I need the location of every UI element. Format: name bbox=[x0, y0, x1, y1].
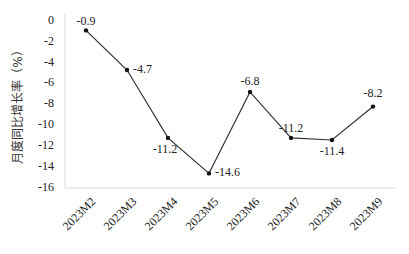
data-point-marker bbox=[371, 104, 375, 108]
data-point-marker bbox=[289, 136, 293, 140]
x-tick-label: 2023M4 bbox=[142, 194, 181, 233]
data-label: -4.7 bbox=[133, 62, 152, 76]
line-chart: 月度同比增长率（%） 0-2-4-6-8-10-12-14-16 -0.9-4.… bbox=[0, 0, 409, 254]
y-tick-label: -6 bbox=[44, 75, 54, 89]
y-tick-label: 0 bbox=[48, 13, 54, 27]
data-labels: -0.9-4.7-11.2-14.6-6.8-11.2-11.4-8.2 bbox=[77, 14, 383, 179]
y-tick-label: -4 bbox=[44, 55, 54, 69]
data-label: -0.9 bbox=[77, 14, 96, 28]
y-tick-label: -10 bbox=[38, 117, 54, 131]
y-axis-ticks: 0-2-4-6-8-10-12-14-16 bbox=[38, 13, 54, 194]
x-axis-ticks: 2023M22023M32023M42023M52023M62023M72023… bbox=[60, 194, 386, 233]
data-point-marker bbox=[248, 90, 252, 94]
y-tick-label: -12 bbox=[38, 138, 54, 152]
data-point-marker bbox=[84, 28, 88, 32]
data-label: -6.8 bbox=[241, 74, 260, 88]
x-tick-label: 2023M7 bbox=[265, 194, 304, 233]
data-label: -11.4 bbox=[320, 144, 345, 158]
data-point-marker bbox=[166, 136, 170, 140]
data-point-marker bbox=[125, 68, 129, 72]
data-label: -11.2 bbox=[279, 121, 304, 135]
x-tick-label: 2023M3 bbox=[101, 194, 140, 233]
x-tick-label: 2023M6 bbox=[224, 194, 263, 233]
data-point-marker bbox=[330, 138, 334, 142]
data-label: -11.2 bbox=[153, 142, 178, 156]
y-tick-label: -8 bbox=[44, 96, 54, 110]
x-tick-label: 2023M2 bbox=[60, 194, 99, 233]
data-label: -14.6 bbox=[215, 165, 240, 179]
x-tick-label: 2023M9 bbox=[347, 194, 386, 233]
y-tick-label: -2 bbox=[44, 34, 54, 48]
data-label: -8.2 bbox=[364, 86, 383, 100]
x-tick-label: 2023M5 bbox=[183, 194, 222, 233]
x-tick-label: 2023M8 bbox=[306, 194, 345, 233]
y-axis-title: 月度同比增长率（%） bbox=[10, 44, 25, 163]
y-tick-label: -16 bbox=[38, 180, 54, 194]
y-tick-label: -14 bbox=[38, 159, 54, 173]
data-point-marker bbox=[207, 171, 211, 175]
